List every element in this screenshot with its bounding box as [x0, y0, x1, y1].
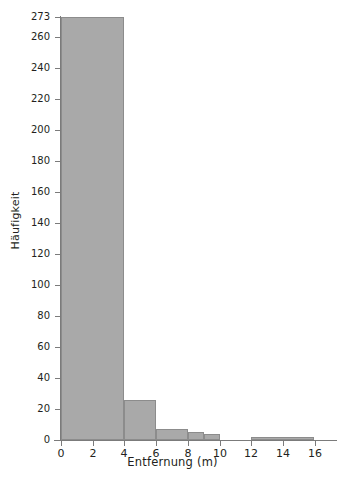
histogram-bar — [61, 17, 124, 440]
histogram-bar — [204, 434, 220, 440]
plot-area — [61, 17, 329, 440]
histogram-bar — [124, 400, 156, 440]
histogram-bar — [156, 429, 188, 440]
histogram-figure: Häufigkeit 02040608010012014016018020022… — [0, 0, 345, 480]
x-axis-title: Entfernung (m) — [0, 455, 345, 469]
histogram-bar — [251, 437, 314, 440]
bar-layer — [0, 0, 345, 480]
histogram-bar — [188, 432, 204, 440]
